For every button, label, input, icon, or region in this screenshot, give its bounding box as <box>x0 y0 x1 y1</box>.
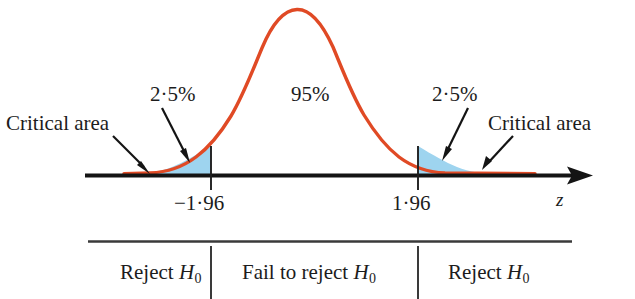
null-hypothesis-subscript: 0 <box>523 271 530 286</box>
table-cell-verb: Reject <box>448 260 502 284</box>
normal-distribution-plot <box>0 0 635 299</box>
hypothesis-test-figure: 2·5% 95% 2·5% Critical area Critical are… <box>0 0 635 299</box>
null-hypothesis-symbol: H <box>353 260 368 284</box>
critical-area-label-left: Critical area <box>6 113 109 134</box>
table-cell-reject-left: Reject H0 <box>120 262 202 286</box>
percent-label-right-tail: 2·5% <box>432 84 478 105</box>
table-cell-verb: Fail to reject <box>242 260 348 284</box>
tick-label-positive-1-96: 1·96 <box>392 193 431 214</box>
table-cell-verb: Reject <box>120 260 174 284</box>
percent-label-center: 95% <box>291 84 330 105</box>
annotation-arrow-percent-right <box>442 108 468 161</box>
tick-label-negative-1-96: −1·96 <box>174 193 224 214</box>
table-cell-reject-right: Reject H0 <box>448 262 530 286</box>
percent-label-left-tail: 2·5% <box>150 84 196 105</box>
null-hypothesis-symbol: H <box>179 260 194 284</box>
x-axis-variable-label: z <box>556 190 563 209</box>
null-hypothesis-symbol: H <box>507 260 522 284</box>
critical-area-label-right: Critical area <box>488 113 591 134</box>
annotation-arrow-critical-right <box>482 136 513 170</box>
null-hypothesis-subscript: 0 <box>195 271 202 286</box>
table-cell-fail-to-reject: Fail to reject H0 <box>242 262 376 286</box>
null-hypothesis-subscript: 0 <box>369 271 376 286</box>
annotation-arrow-percent-left <box>162 108 190 163</box>
annotation-arrow-critical-left <box>113 136 150 174</box>
